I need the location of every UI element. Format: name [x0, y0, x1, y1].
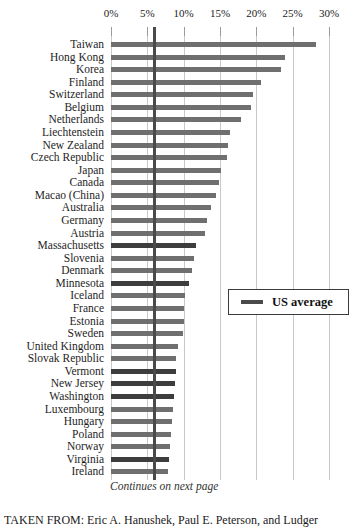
bar-row-label: Virginia	[0, 453, 104, 466]
bar-row-label: Netherlands	[0, 113, 104, 126]
country-bar	[111, 117, 241, 122]
source-caption: TAKEN FROM: Eric A. Hanushek, Paul E. Pe…	[4, 513, 360, 528]
bar-row-label: Hong Kong	[0, 51, 104, 64]
state-bar	[111, 394, 174, 399]
country-bar	[111, 143, 228, 148]
bar-row-label: Canada	[0, 176, 104, 189]
country-bar	[111, 432, 171, 437]
axis-tick-label: 5%	[140, 7, 155, 19]
axis-tick-label: 15%	[210, 7, 230, 19]
country-bar	[111, 130, 230, 135]
bar-row-label: Liechtenstein	[0, 126, 104, 139]
legend-label: US average	[272, 295, 333, 310]
country-bar	[111, 168, 221, 173]
country-bar	[111, 42, 316, 47]
country-bar	[111, 344, 178, 349]
country-bar	[111, 356, 176, 361]
country-bar	[111, 319, 184, 324]
state-bar	[111, 369, 176, 374]
gridline	[256, 36, 257, 480]
legend: US average	[228, 289, 349, 315]
bar-row-label: Massachusetts	[0, 239, 104, 252]
country-bar	[111, 180, 219, 185]
bar-row-label: Ireland	[0, 465, 104, 478]
bar-row-label: Norway	[0, 440, 104, 453]
country-bar	[111, 293, 185, 298]
continues-note: Continues on next page	[110, 480, 218, 492]
bar-row-label: Luxembourg	[0, 403, 104, 416]
axis-tick-label: 30%	[319, 7, 339, 19]
bar-row-label: France	[0, 302, 104, 315]
country-bar	[111, 218, 207, 223]
gridline	[329, 36, 330, 480]
bar-row-label: Vermont	[0, 365, 104, 378]
bar-row-label: New Jersey	[0, 377, 104, 390]
country-bar	[111, 419, 172, 424]
bar-row-label: Japan	[0, 164, 104, 177]
bar-row-label: Australia	[0, 201, 104, 214]
country-bar	[111, 55, 285, 60]
gridline	[220, 36, 221, 480]
country-bar	[111, 469, 168, 474]
state-bar	[111, 457, 169, 462]
country-bar	[111, 231, 205, 236]
country-bar	[111, 92, 253, 97]
bar-row-label: Slovenia	[0, 252, 104, 265]
bar-row-label: Korea	[0, 63, 104, 76]
country-bar	[111, 331, 183, 336]
state-bar	[111, 281, 189, 286]
bar-row-label: Czech Republic	[0, 151, 104, 164]
country-bar	[111, 105, 251, 110]
country-bar	[111, 155, 227, 160]
bar-row-label: Poland	[0, 428, 104, 441]
bar-row-label: Minnesota	[0, 277, 104, 290]
country-bar	[111, 444, 170, 449]
bar-row-label: New Zealand	[0, 139, 104, 152]
us-average-line	[153, 27, 156, 480]
country-bar	[111, 407, 173, 412]
bar-row-label: Austria	[0, 227, 104, 240]
bar-row-label: Iceland	[0, 289, 104, 302]
us-average-dash-icon	[241, 300, 263, 304]
bar-row-label: Denmark	[0, 264, 104, 277]
country-bar	[111, 67, 281, 72]
bar-row-label: United Kingdom	[0, 340, 104, 353]
bar-row-label: Germany	[0, 214, 104, 227]
bar-row-label: Slovak Republic	[0, 352, 104, 365]
gridline	[293, 36, 294, 480]
country-bar	[111, 306, 184, 311]
axis-tick-label: 25%	[283, 7, 303, 19]
bar-row-label: Taiwan	[0, 38, 104, 51]
bar-row-label: Macao (China)	[0, 189, 104, 202]
bar-row-label: Finland	[0, 76, 104, 89]
country-bar	[111, 80, 261, 85]
bar-row-label: Switzerland	[0, 88, 104, 101]
country-bar	[111, 193, 216, 198]
bar-row-label: Washington	[0, 390, 104, 403]
state-bar	[111, 381, 175, 386]
country-bar	[111, 205, 211, 210]
axis-tick-label: 20%	[246, 7, 266, 19]
bar-row-label: Sweden	[0, 327, 104, 340]
bar-row-label: Hungary	[0, 415, 104, 428]
bar-row-label: Estonia	[0, 315, 104, 328]
axis-tick-label: 0%	[104, 7, 119, 19]
bar-row-label: Belgium	[0, 101, 104, 114]
axis-tick-label: 10%	[174, 7, 194, 19]
country-bar	[111, 268, 192, 273]
